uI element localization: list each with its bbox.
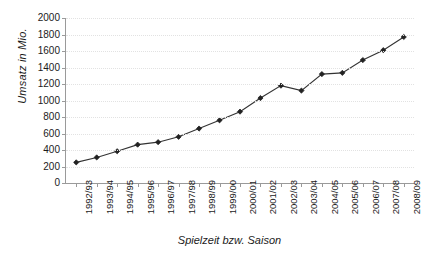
gridline [66,84,414,85]
x-axis-tick-label: 2008/09 [411,180,422,232]
x-axis-tick-label: 1993/94 [104,180,115,232]
y-axis-tick-label: 0 [24,178,60,188]
y-axis-tick-mark [62,134,66,135]
data-point-marker [135,142,140,147]
y-axis-tick-mark [62,117,66,118]
plot-area [65,18,414,184]
data-point-marker [217,118,222,123]
data-point-marker [340,70,345,75]
y-axis-tick-mark [62,84,66,85]
gridline [66,167,414,168]
x-axis-tick-label: 2002/03 [288,180,299,232]
y-axis-tick-label: 1000 [24,96,60,106]
y-axis-tick-label: 1800 [24,30,60,40]
data-point-marker [360,57,365,62]
gridline [66,51,414,52]
data-point-marker [196,126,201,131]
y-axis-tick-label: 1200 [24,79,60,89]
x-axis-tick-label: 2004/05 [329,180,340,232]
y-axis-tick-mark [62,101,66,102]
y-axis-tick-mark [62,167,66,168]
x-axis-tick-label: 2005/06 [349,180,360,232]
x-axis-tick-label: 1997/98 [186,180,197,232]
y-axis-tick-label: 400 [24,145,60,155]
data-point-marker [94,155,99,160]
gridline [66,35,414,36]
y-axis-tick-mark [62,183,66,184]
x-axis-tick-label: 2001/02 [267,180,278,232]
x-axis-title: Spielzeit bzw. Saison [0,234,425,246]
gridline [66,101,414,102]
chart-container: Umsatz in Mio. 2000180016001400120010008… [0,0,425,259]
x-axis-tick-label: 2007/08 [390,180,401,232]
x-axis-tick-label: 1999/00 [227,180,238,232]
data-point-marker [156,140,161,145]
y-axis-tick-mark [62,18,66,19]
y-axis-tick-mark [62,51,66,52]
y-axis-tick-label: 800 [24,112,60,122]
x-axis-tick-label: 1996/97 [165,180,176,232]
gridline [66,134,414,135]
y-axis-tick-label: 600 [24,129,60,139]
x-axis-tick-label: 2003/04 [308,180,319,232]
x-axis-tick-label: 2006/07 [370,180,381,232]
gridline [66,68,414,69]
gridline [66,117,414,118]
x-axis-tick-label-group: 1992/931993/941994/951995/961996/971997/… [65,186,413,232]
y-axis-tick-mark [62,150,66,151]
y-axis-tick-mark [62,35,66,36]
x-axis-tick-label: 2000/01 [247,180,258,232]
x-axis-tick-label: 1995/96 [145,180,156,232]
y-axis-tick-label: 200 [24,162,60,172]
data-point-marker [74,160,79,165]
y-axis-tick-mark [62,68,66,69]
y-axis-tick-label: 2000 [24,13,60,23]
x-axis-tick-label: 1994/95 [124,180,135,232]
x-axis-tick-label: 1998/99 [206,180,217,232]
y-axis-tick-label: 1600 [24,46,60,56]
y-axis-tick-label: 1400 [24,63,60,73]
y-axis-tick-label-group: 2000180016001400120010008006004002000 [24,12,60,189]
gridline [66,150,414,151]
x-axis-tick-label: 1992/93 [83,180,94,232]
gridline [66,18,414,19]
data-point-marker [176,134,181,139]
